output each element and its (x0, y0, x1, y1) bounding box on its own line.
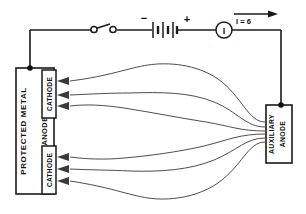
current-arrow-head (268, 11, 278, 18)
arrowhead-1 (57, 77, 69, 85)
protected-metal-junction-dot (27, 65, 33, 71)
battery-positive-label: + (184, 13, 190, 25)
arrowhead-3 (57, 102, 69, 110)
protected-metal-label: PROTECTED METAL (19, 87, 28, 175)
battery-symbol (153, 22, 177, 38)
arrowhead-6 (57, 177, 69, 185)
current-path-2 (70, 93, 265, 127)
arrowhead-4 (57, 153, 69, 161)
auxiliary-anode-label-line1: AUXILIARY (268, 114, 275, 154)
anode-label: ANODE (40, 116, 49, 145)
switch-blade (96, 24, 110, 29)
figure-root: − + I I = 6 PROTECTED METAL ANODE CATHOD… (0, 0, 306, 214)
cathode-label-upper: CATHODE (46, 77, 53, 112)
switch-contact-right[interactable] (110, 26, 116, 32)
ammeter-symbol-label: I (223, 26, 226, 36)
auxiliary-anode-label-line2: ANODE (279, 121, 286, 148)
current-path-3 (70, 105, 265, 131)
cathode-label-lower: CATHODE (46, 153, 53, 188)
auxiliary-anode-junction-dot (278, 102, 284, 108)
arrowhead-2 (57, 91, 69, 99)
battery-negative-label: − (141, 12, 147, 24)
switch-contacts[interactable] (91, 26, 116, 32)
switch-contact-left[interactable] (91, 26, 97, 32)
current-value-label: I = 6 (236, 17, 251, 26)
current-path-4 (70, 134, 265, 159)
current-arrowheads (57, 77, 69, 185)
arrowhead-5 (57, 165, 69, 173)
cathodic-protection-diagram: − + I I = 6 PROTECTED METAL ANODE CATHOD… (0, 0, 306, 214)
current-flow-paths (70, 64, 265, 199)
